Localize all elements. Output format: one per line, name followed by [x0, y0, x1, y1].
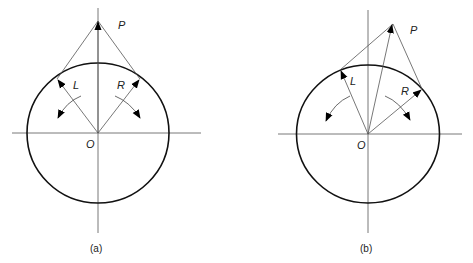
rotation-arrow-left-icon — [326, 96, 350, 121]
caption-a: (a) — [90, 243, 102, 254]
label-p: P — [118, 19, 126, 31]
label-l: L — [73, 79, 79, 91]
panel-b: P L R O (b) — [278, 10, 462, 254]
label-o: O — [357, 139, 366, 151]
rotation-arrow-right-icon — [115, 96, 140, 118]
vector-op-icon — [368, 25, 392, 134]
label-r: R — [401, 85, 409, 97]
caption-b: (b) — [360, 243, 372, 254]
tangent-left — [57, 21, 98, 79]
label-p: P — [410, 24, 418, 36]
rotation-arrow-left-icon — [58, 96, 81, 118]
label-l: L — [350, 75, 356, 87]
label-r: R — [117, 79, 125, 91]
tangent-right — [393, 24, 422, 89]
label-o: O — [86, 138, 95, 150]
tangent-left — [340, 24, 393, 70]
panel-a: P L R O (a) — [12, 8, 201, 254]
diagram-canvas: P L R O (a) P L R O (b) — [0, 0, 473, 263]
